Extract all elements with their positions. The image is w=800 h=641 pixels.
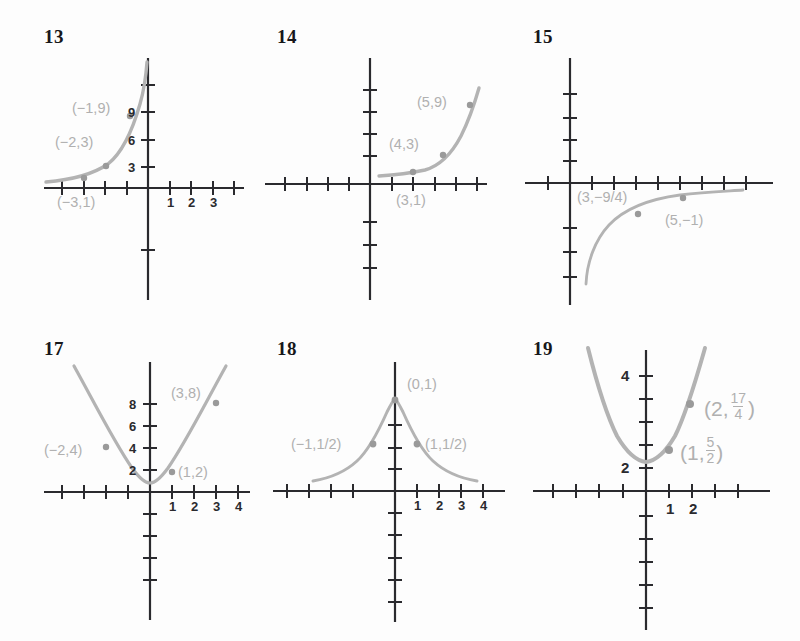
annot-suffix: ) — [716, 442, 723, 463]
point-annotation: (−1,1/2) — [291, 437, 341, 452]
y-tick-label: 6 — [129, 420, 136, 433]
x-tick-label: 2 — [689, 501, 697, 516]
graph-14 — [265, 0, 525, 310]
panel-15: 15 — [525, 0, 800, 320]
panel-17: 17 — [0, 320, 265, 641]
y-tick-label: 2 — [621, 460, 629, 475]
x-tick-label: 4 — [235, 500, 242, 513]
x-tick-label: 3 — [458, 499, 465, 512]
point-annotation: (5,9) — [417, 95, 447, 110]
data-point — [635, 211, 641, 217]
x-tick-label: 2 — [436, 499, 443, 512]
data-point — [169, 469, 175, 475]
data-point — [410, 169, 416, 175]
x-tick-label: 1 — [414, 499, 421, 512]
fraction-denominator: 4 — [733, 406, 743, 422]
panel-14: 14 — [265, 0, 525, 310]
point-annotation: (0,1) — [407, 377, 437, 392]
x-tick-label: 1 — [169, 500, 176, 513]
data-point — [370, 441, 377, 448]
data-point — [213, 400, 219, 406]
data-point — [392, 397, 399, 404]
annot-prefix: (1, — [680, 442, 705, 463]
annot-prefix: (2, — [704, 398, 729, 419]
data-point — [103, 444, 109, 450]
point-annotation-fraction: (1, 5 2 ) — [680, 436, 723, 466]
y-tick-label: 4 — [621, 368, 629, 383]
fraction-denominator: 2 — [706, 450, 716, 466]
point-annotation: (−2,3) — [55, 135, 93, 150]
point-annotation: (−3,1) — [57, 195, 95, 210]
graph-17 — [0, 320, 265, 641]
panel-19: 19 — [525, 320, 800, 641]
x-tick-label: 1 — [666, 501, 674, 516]
data-point — [440, 152, 446, 158]
fraction: 17 4 — [730, 391, 748, 421]
fraction: 5 2 — [706, 435, 716, 465]
data-point — [81, 175, 87, 181]
y-tick-label: 6 — [128, 134, 135, 147]
point-annotation: (3,−9/4) — [577, 190, 627, 205]
data-point — [665, 446, 673, 454]
fraction-numerator: 17 — [730, 391, 748, 406]
data-point — [414, 441, 421, 448]
x-tick-label: 2 — [191, 500, 198, 513]
point-annotation: (3,1) — [396, 193, 426, 208]
data-point — [103, 163, 109, 169]
y-tick-label: 4 — [129, 442, 136, 455]
annot-suffix: ) — [748, 398, 755, 419]
point-annotation: (5,−1) — [665, 213, 703, 228]
point-annotation-fraction: (2, 17 4 ) — [704, 392, 755, 422]
graph-19 — [525, 320, 800, 641]
point-annotation: (3,8) — [171, 386, 201, 401]
data-point — [680, 195, 686, 201]
graph-18 — [265, 320, 525, 641]
graph-13 — [0, 0, 265, 310]
y-tick-label: 8 — [129, 398, 136, 411]
x-tick-label: 3 — [210, 196, 217, 209]
y-tick-label: 2 — [129, 464, 136, 477]
data-point — [467, 102, 473, 108]
point-annotation: (4,3) — [389, 137, 419, 152]
x-tick-label: 4 — [480, 499, 487, 512]
y-tick-label: 3 — [128, 161, 135, 174]
y-tick-label: 9 — [128, 106, 135, 119]
point-annotation: (−2,4) — [44, 443, 82, 458]
x-tick-label: 3 — [213, 500, 220, 513]
point-annotation: (−1,9) — [72, 101, 110, 116]
data-point — [686, 400, 694, 408]
x-tick-label: 1 — [167, 196, 174, 209]
panel-18: 18 — [265, 320, 525, 641]
x-tick-label: 2 — [188, 196, 195, 209]
worksheet-page: 13 — [0, 0, 800, 641]
panel-13: 13 — [0, 0, 265, 310]
fraction-numerator: 5 — [706, 435, 716, 450]
point-annotation: (1,2) — [178, 465, 208, 480]
point-annotation: (1,1/2) — [425, 437, 467, 452]
graph-15 — [525, 0, 800, 320]
